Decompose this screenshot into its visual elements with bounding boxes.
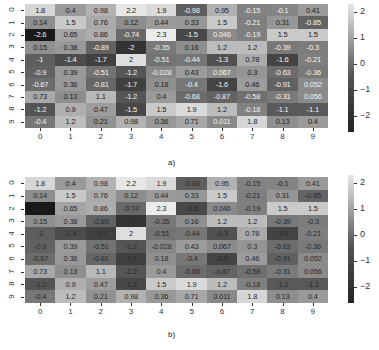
heatmap-cell: 2.3 (146, 202, 176, 215)
heatmap-cell: 0.47 (86, 278, 116, 291)
heatmap-cell: -1.3 (207, 227, 237, 240)
heatmap-cell: 1.2 (207, 215, 237, 228)
heatmap-cell: 0.36 (55, 253, 85, 266)
heatmap-cell: 0.78 (237, 227, 267, 240)
y-tick-mark (21, 246, 24, 247)
heatmap-cell: -0.36 (298, 240, 328, 253)
heatmap-cell: 0.067 (207, 240, 237, 253)
colorbar-tick-label: −2 (360, 281, 370, 291)
heatmap-cell: -0.18 (237, 278, 267, 291)
colorbar-tick (354, 235, 357, 236)
heatmap-cell: -0.21 (237, 190, 267, 203)
heatmap-cell: 0.46 (237, 253, 267, 266)
y-tick-mark (21, 297, 24, 298)
heatmap-cell: -2.6 (25, 202, 55, 215)
heatmap-cell: 0.36 (146, 290, 176, 303)
heatmap-cell: 1.9 (176, 278, 206, 291)
heatmap-cell: 1.5 (267, 202, 297, 215)
heatmap-cell: 0.4 (55, 177, 85, 190)
heatmap-cell: 0.3 (237, 240, 267, 253)
heatmap-cell: -2 (116, 215, 146, 228)
heatmap-cell: 0.95 (207, 177, 237, 190)
heatmap-cell: -0.19 (237, 202, 267, 215)
x-tick-mark (40, 303, 41, 306)
heatmap-cell: 0.052 (298, 253, 328, 266)
heatmap-cell: 1.9 (146, 177, 176, 190)
heatmap-cell: 0.4 (298, 290, 328, 303)
heatmap-cell: 0.71 (176, 290, 206, 303)
heatmap-cell: -0.4 (25, 290, 55, 303)
heatmap-cell: 0.12 (116, 190, 146, 203)
y-tick-mark (21, 209, 24, 210)
x-tick-mark (252, 303, 253, 306)
heatmap-cell: -0.51 (86, 240, 116, 253)
heatmap-cell: -1.5 (116, 278, 146, 291)
heatmap-cell: 0.43 (176, 240, 206, 253)
y-tick-label: 9 (7, 287, 16, 305)
heatmap-cell: -0.9 (25, 240, 55, 253)
heatmap-cell: 0.18 (146, 253, 176, 266)
heatmap-cell: 0.14 (25, 190, 55, 203)
x-tick-mark (101, 303, 102, 306)
heatmap-cell: 0.046 (207, 202, 237, 215)
heatmap-cell: 0.16 (176, 215, 206, 228)
heatmap-cell: 2 (116, 227, 146, 240)
heatmap-cell: -0.81 (86, 253, 116, 266)
heatmap-cell: -0.89 (86, 215, 116, 228)
colorbar-tick (354, 209, 357, 210)
x-tick-label: 1 (60, 307, 80, 316)
x-tick-mark (131, 303, 132, 306)
heatmap-cell: -0.67 (25, 253, 55, 266)
colorbar-tick (354, 183, 357, 184)
heatmap-cell: 1.5 (55, 190, 85, 203)
heatmap-cell: -1.2 (116, 240, 146, 253)
heatmap-cell: -0.028 (146, 240, 176, 253)
heatmap-cell: 0.98 (86, 177, 116, 190)
heatmap-cell: 0.21 (86, 290, 116, 303)
x-tick-label: 5 (182, 307, 202, 316)
y-tick-mark (21, 272, 24, 273)
heatmap-cell: -1.6 (207, 253, 237, 266)
colorbar-tick (354, 287, 357, 288)
heatmap-cell: -0.74 (116, 202, 146, 215)
heatmap-cell: -0.91 (267, 253, 297, 266)
x-tick-label: 8 (273, 307, 293, 316)
heatmap-cell: 0.44 (146, 190, 176, 203)
heatmap-cell: 0.65 (55, 202, 85, 215)
y-tick-mark (21, 221, 24, 222)
colorbar (348, 175, 354, 303)
heatmap-cell: 0.33 (176, 190, 206, 203)
heatmap-cell: 0.13 (55, 265, 85, 278)
x-tick-mark (70, 303, 71, 306)
heatmap-cell: 1.2 (55, 290, 85, 303)
heatmap-cell: 1.5 (207, 190, 237, 203)
heatmap-cell: -1.2 (116, 265, 146, 278)
heatmap-panel-b: 1.80.40.982.21.9-0.980.95-0.15-0.10.410.… (0, 0, 379, 350)
heatmap-cell: -0.4 (176, 253, 206, 266)
x-tick-label: 6 (212, 307, 232, 316)
heatmap-cell: -1.1 (298, 278, 328, 291)
colorbar-tick-label: 0 (360, 229, 365, 239)
x-tick-mark (222, 303, 223, 306)
heatmap-cell: -1 (25, 227, 55, 240)
heatmap-cell: 0.38 (55, 215, 85, 228)
y-tick-mark (21, 259, 24, 260)
x-tick-mark (283, 303, 284, 306)
heatmap-cell: -0.98 (176, 177, 206, 190)
heatmap-cell: -0.21 (298, 227, 328, 240)
heatmap-cell: -1.2 (25, 278, 55, 291)
heatmap-cell: 1.1 (86, 265, 116, 278)
heatmap-cell: -1.7 (86, 227, 116, 240)
heatmap-cell: 0.41 (298, 177, 328, 190)
y-tick-mark (21, 196, 24, 197)
heatmap-cell: 0.4 (146, 265, 176, 278)
y-tick-mark (21, 234, 24, 235)
heatmap-cell: 0.31 (267, 190, 297, 203)
y-tick-mark (21, 183, 24, 184)
heatmap-cell: 0.13 (267, 290, 297, 303)
y-tick-mark (21, 284, 24, 285)
heatmap-cell: 0.011 (207, 290, 237, 303)
colorbar-tick-label: 1 (360, 203, 365, 213)
heatmap-cell: 0.15 (25, 215, 55, 228)
heatmap-grid: 1.80.40.982.21.9-0.980.95-0.15-0.10.410.… (25, 177, 328, 303)
